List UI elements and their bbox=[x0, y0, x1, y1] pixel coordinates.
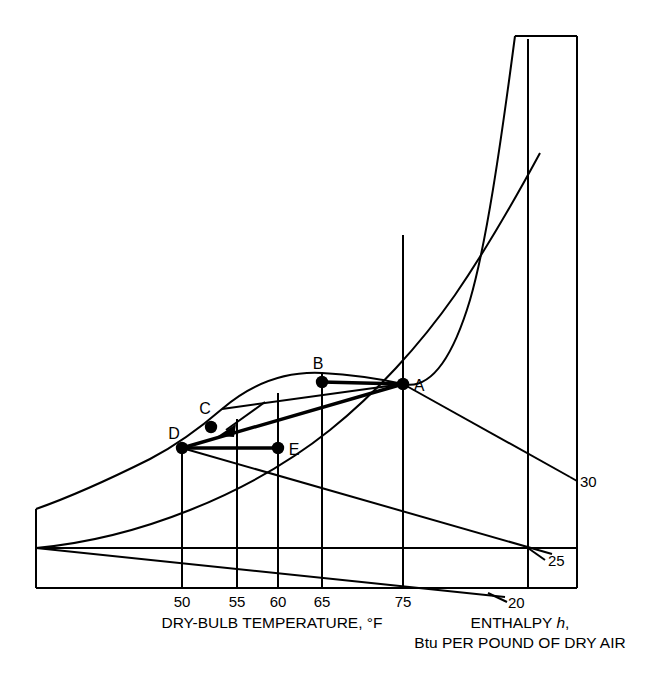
x-tick-label-60: 60 bbox=[270, 593, 287, 610]
state-point-a-dot bbox=[397, 378, 409, 390]
enthalpy-tick-label-20: 20 bbox=[508, 594, 525, 611]
chart-frame bbox=[36, 36, 577, 588]
state-point-c-dot bbox=[205, 421, 217, 433]
state-point-c-label: C bbox=[199, 400, 211, 417]
state-point-b-dot bbox=[316, 376, 328, 388]
state-point-e-label: E bbox=[289, 441, 300, 458]
x-tick-label-50: 50 bbox=[174, 593, 191, 610]
dry-bulb-gridlines bbox=[182, 235, 403, 588]
x-axis-tick-labels: 50 55 60 65 75 bbox=[174, 593, 412, 610]
x-axis-caption: DRY-BULB TEMPERATURE, °F bbox=[162, 614, 383, 631]
state-point-d-label: D bbox=[168, 425, 180, 442]
state-point-a-label: A bbox=[414, 377, 425, 394]
enthalpy-caption-line1: ENTHALPY h, bbox=[471, 614, 570, 631]
saturation-curve bbox=[36, 36, 515, 509]
saturation-curve-group bbox=[36, 36, 515, 509]
psychrometric-chart-figure: A B C D E 50 55 60 65 75 30 25 20 DRY-BU… bbox=[0, 0, 655, 674]
leader-line-30 bbox=[570, 477, 577, 481]
relative-humidity-curve bbox=[36, 153, 540, 548]
relative-humidity-curve-group bbox=[36, 153, 540, 548]
enthalpy-tick-label-25: 25 bbox=[548, 552, 565, 569]
enthalpy-line-upper bbox=[222, 384, 403, 409]
x-tick-label-65: 65 bbox=[314, 593, 331, 610]
x-tick-label-75: 75 bbox=[395, 593, 412, 610]
enthalpy-caption-suffix: , bbox=[565, 614, 569, 631]
process-line-b-to-a bbox=[322, 382, 403, 384]
state-point-b-label: B bbox=[313, 355, 324, 372]
enthalpy-line-20 bbox=[36, 548, 505, 597]
enthalpy-tick-labels: 30 25 20 bbox=[508, 473, 597, 611]
axis-captions: DRY-BULB TEMPERATURE, °F ENTHALPY h, Btu… bbox=[162, 614, 626, 651]
state-point-e-dot bbox=[272, 442, 284, 454]
enthalpy-caption-line2: Btu PER POUND OF DRY AIR bbox=[414, 634, 625, 651]
arrow-head-icon bbox=[218, 424, 236, 437]
enthalpy-line-30 bbox=[403, 384, 570, 477]
enthalpy-lines bbox=[36, 384, 570, 597]
psychrometric-chart-svg: A B C D E 50 55 60 65 75 30 25 20 DRY-BU… bbox=[0, 0, 655, 674]
state-point-d-dot bbox=[176, 442, 188, 454]
enthalpy-caption-prefix: ENTHALPY bbox=[471, 614, 557, 631]
enthalpy-caption-symbol: h bbox=[556, 614, 565, 631]
enthalpy-tick-label-30: 30 bbox=[580, 473, 597, 490]
x-tick-label-55: 55 bbox=[229, 593, 246, 610]
